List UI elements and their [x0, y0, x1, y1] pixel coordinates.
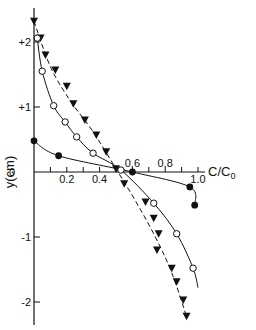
open-circle-marker: [118, 167, 124, 173]
filled-circle-marker: [31, 137, 38, 144]
x-tick-label: 0.8: [158, 157, 173, 169]
filled-triangle-marker: [173, 278, 181, 286]
x-tick-label: 0.6: [125, 157, 140, 169]
y-tick-label: -2: [21, 296, 31, 308]
filled-triangle-marker: [30, 18, 38, 26]
y-tick-label: -1: [21, 231, 31, 243]
filled-triangle-marker: [183, 313, 191, 321]
open-circle-marker: [190, 265, 196, 271]
filled-triangle-marker: [142, 198, 150, 206]
y-tick-label: +2: [18, 36, 31, 48]
filled-triangle-marker: [179, 297, 187, 305]
filled-triangle-marker: [92, 131, 100, 139]
open-circle-marker: [173, 231, 179, 237]
filled-circle-marker: [55, 152, 62, 159]
filled-triangle-marker: [150, 215, 158, 223]
filled-triangle-marker: [69, 100, 77, 108]
filled-triangle-marker: [155, 230, 163, 238]
x-tick-label: 0.4: [92, 173, 107, 185]
filled-triangle-marker: [120, 180, 128, 188]
x-tick-label: 1.0: [190, 173, 205, 185]
open-circle-marker: [62, 119, 68, 125]
chart-canvas: 0.20.40.60.81.0+2+10-1-2 C/C0 y(cm): [0, 0, 256, 330]
filled-triangle-marker: [63, 83, 71, 91]
y-axis-title: y(cm): [2, 156, 17, 189]
filled-circle-marker: [191, 202, 198, 209]
y-tick-label: +1: [18, 101, 31, 113]
open-circle-marker: [34, 35, 40, 41]
filled-triangle-marker: [102, 148, 110, 156]
open-circle-marker: [39, 68, 45, 74]
x-axis-title: C/C0: [208, 164, 235, 181]
open-circle-marker: [90, 150, 96, 156]
open-circles-curve: [37, 38, 198, 288]
open-circle-marker: [73, 134, 79, 140]
filled-triangle-marker: [168, 265, 176, 273]
filled-circle-marker: [129, 169, 136, 176]
open-circle-marker: [151, 200, 157, 206]
x-tick-label: 0.2: [59, 173, 74, 185]
filled-triangle-marker: [81, 117, 89, 125]
filled-triangle-marker: [41, 52, 49, 60]
open-circle-marker: [50, 103, 56, 109]
filled-triangle-marker: [153, 247, 161, 255]
filled-circle-marker: [186, 184, 193, 191]
